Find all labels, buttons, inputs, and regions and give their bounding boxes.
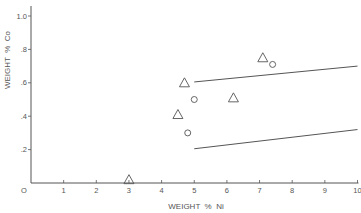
circle-marker bbox=[191, 97, 197, 103]
x-tick-label: 10 bbox=[353, 186, 361, 195]
x-tick-label: 3 bbox=[127, 186, 131, 195]
y-tick-label: 1.0 bbox=[17, 12, 27, 21]
x-tick-label: 4 bbox=[160, 186, 164, 195]
y-axis-label: WEIGHT % Co bbox=[3, 30, 12, 89]
scatter-chart: O12345678910.2.4.6.81.0 WEIGHT % Ni WEIG… bbox=[0, 0, 361, 213]
x-tick-label: 5 bbox=[192, 186, 196, 195]
triangle-marker bbox=[258, 53, 268, 62]
triangle-marker bbox=[228, 93, 238, 102]
triangle-marker bbox=[173, 110, 183, 119]
y-tick-label: .2 bbox=[21, 145, 27, 154]
x-tick-label: 6 bbox=[225, 186, 229, 195]
triangle-marker bbox=[179, 78, 189, 87]
x-tick-label: 1 bbox=[62, 186, 66, 195]
data-points bbox=[124, 53, 276, 184]
upper-bound-line bbox=[194, 66, 357, 82]
x-tick-label: 2 bbox=[94, 186, 98, 195]
x-tick-label: 7 bbox=[257, 186, 261, 195]
y-tick-label: .6 bbox=[21, 78, 27, 87]
lower-bound-line bbox=[194, 130, 357, 149]
x-axis-label: WEIGHT % Ni bbox=[168, 202, 224, 211]
bound-lines bbox=[194, 66, 357, 149]
y-tick-label: .8 bbox=[21, 45, 27, 54]
circle-marker bbox=[185, 130, 191, 136]
circle-marker bbox=[270, 61, 276, 67]
y-tick-label: .4 bbox=[21, 112, 27, 121]
x-tick-label: 9 bbox=[323, 186, 327, 195]
x-tick-label: O bbox=[21, 186, 27, 195]
x-tick-label: 8 bbox=[290, 186, 294, 195]
axes: O12345678910.2.4.6.81.0 bbox=[17, 6, 361, 195]
